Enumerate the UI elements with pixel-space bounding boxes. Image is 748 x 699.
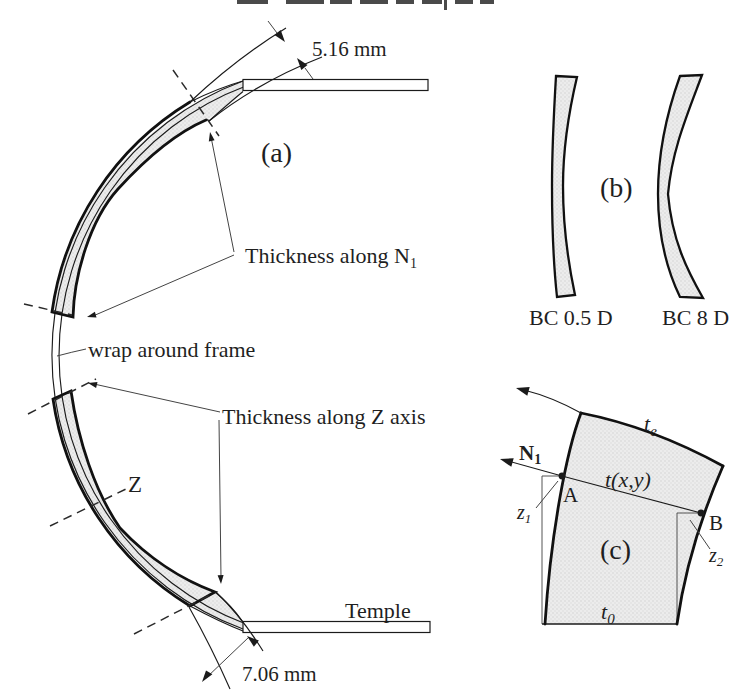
lens-bc05-caption: BC 0.5 D — [529, 305, 613, 330]
cropped-caption-fragment — [237, 0, 494, 10]
temple-label: Temple — [345, 598, 411, 623]
dimension-arrow-icon — [247, 636, 259, 647]
lens-bc05-shape — [552, 76, 577, 297]
figure-canvas: 5.16 mm 7.06 mm Thickness along N1 wrap … — [0, 0, 748, 699]
thickness-z-label: Thickness along Z axis — [222, 404, 425, 429]
z1-label: z1 — [516, 501, 531, 526]
wrap-frame-label: wrap around frame — [88, 337, 255, 362]
z1-leader-line — [536, 481, 558, 508]
dimension-arrow-icon — [202, 671, 212, 682]
edge-thickness-label: te — [644, 411, 657, 439]
panel-c-label: (c) — [600, 534, 631, 565]
panel-a-label: (a) — [261, 137, 292, 168]
tangent-arrow-shaft — [524, 390, 581, 413]
lens-geometry-figure: 5.16 mm 7.06 mm Thickness along N1 wrap … — [0, 0, 748, 699]
leader-arrow-icon — [218, 575, 224, 584]
thickness-n1-label: Thickness along N1 — [245, 243, 417, 271]
leader-arrow-icon — [209, 132, 215, 141]
bottom-thickness-value: 7.06 mm — [242, 662, 317, 686]
normal-arrow-icon — [500, 458, 514, 467]
top-thickness-value: 5.16 mm — [312, 37, 387, 61]
point-b-dot — [698, 510, 705, 517]
z2-label: z2 — [708, 544, 724, 569]
point-a-label: A — [563, 483, 579, 507]
lens-bc8-shape — [658, 75, 703, 298]
leader-line — [94, 384, 220, 412]
dimension-arrow-icon — [297, 58, 308, 70]
leader-line — [211, 137, 234, 252]
panel-c-thickness-element: N1 A B z1 z2 te t(x,y) t0 (c) — [500, 387, 724, 627]
point-a-dot — [559, 473, 566, 480]
local-thickness-label: t(x,y) — [605, 467, 651, 492]
leader-line — [219, 420, 221, 578]
arrow-tail — [305, 68, 313, 79]
panel-a-wrap-around-profile: 5.16 mm 7.06 mm Thickness along N1 wrap … — [24, 21, 430, 689]
upper-lens-outline — [52, 102, 206, 317]
point-b-label: B — [709, 511, 723, 535]
wrap-frame-callout: wrap around frame — [57, 337, 255, 362]
z-axis-label: Z — [128, 472, 142, 497]
bottom-temple-bar — [243, 622, 430, 633]
arrow-tail — [268, 21, 277, 33]
tangent-arrow-icon — [516, 387, 530, 396]
leader-line — [93, 255, 234, 316]
lens-bc8-caption: BC 8 D — [662, 305, 729, 330]
panel-b-base-curves: (b) BC 0.5 D BC 8 D — [529, 75, 729, 330]
leader-line — [57, 349, 86, 356]
normal-vector-label: N1 — [519, 441, 541, 467]
panel-b-label: (b) — [600, 172, 633, 203]
leader-arrow-icon — [87, 312, 97, 318]
lower-lens-outline — [53, 391, 215, 606]
leader-arrow-icon — [88, 382, 98, 388]
